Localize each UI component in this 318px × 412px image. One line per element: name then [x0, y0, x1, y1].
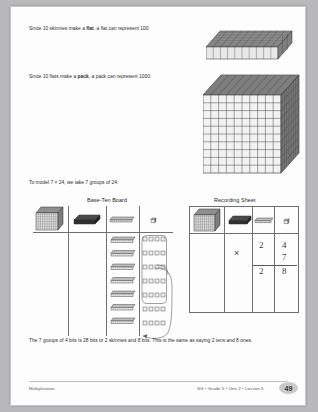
board-divider-1 [68, 206, 69, 336]
page-number-badge: 49 [279, 382, 298, 394]
sheet-header-skinny-icon [254, 217, 274, 225]
sheet-divider-2 [252, 207, 253, 312]
paragraph-1-post: , a flat can represent 100: [94, 26, 150, 31]
board-header-pack-icon [35, 206, 65, 232]
sheet-header-rule [190, 233, 298, 234]
multiplier-digit: 7 [282, 252, 287, 262]
factor-ones-digit: 4 [282, 240, 287, 250]
footer-divider [29, 381, 287, 382]
sheet-divider-3 [274, 207, 275, 312]
pack-illustration [203, 73, 301, 177]
footer-reference-label: SG • Grade 5 • Unit 2 • Lesson 5 [197, 386, 264, 391]
sheet-header-pack-icon [193, 208, 222, 233]
sheet-header-flat-icon [228, 215, 252, 227]
board-divider-2 [106, 206, 107, 336]
product-ones-digit: 8 [282, 266, 287, 276]
paragraph-flat-intro: Since 10 skinnies make a flat, a flat ca… [29, 25, 179, 32]
base-ten-board-title: Base-Ten Board [87, 197, 127, 203]
paragraph-2-bold: pack [78, 74, 89, 79]
multiplication-operator: × [234, 248, 239, 258]
board-skinnies-group [110, 236, 137, 334]
paragraph-model-intro: To model 7 × 24, we take 7 groups of 24: [29, 179, 244, 186]
textbook-page: Since 10 skinnies make a flat, a flat ca… [10, 6, 306, 406]
flat-illustration [206, 27, 296, 67]
product-tens-digit: 2 [259, 266, 264, 276]
paragraph-pack-intro: Since 10 flats make a pack, a pack can r… [29, 73, 179, 80]
paragraph-1-bold: flat [86, 26, 93, 31]
board-header-flat-icon [73, 214, 101, 240]
paragraph-2-post: , a pack can represent 1000: [89, 74, 152, 79]
paragraph-summary: The 7 groups of 4 bits is 28 bits or 2 s… [29, 337, 277, 345]
footer-chapter-label: Multiplication [29, 386, 54, 391]
sheet-header-bit-icon [283, 218, 290, 225]
board-bits-group [141, 235, 177, 343]
paragraph-2-pre: Since 10 flats make a [29, 74, 78, 79]
recording-sheet-title: Recording Sheet [214, 197, 256, 203]
base-ten-board [33, 206, 173, 336]
paragraph-1-pre: Since 10 skinnies make a [29, 26, 86, 31]
sheet-divider-1 [224, 207, 225, 312]
recording-sheet: × 2 4 7 2 8 [189, 206, 299, 313]
factor-tens-digit: 2 [259, 240, 264, 250]
board-divider-3 [139, 206, 140, 336]
